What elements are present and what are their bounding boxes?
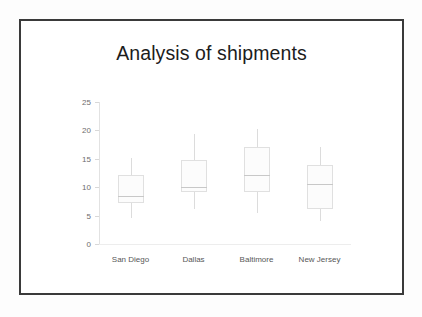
whisker-lower	[257, 192, 258, 213]
x-axis-line	[99, 244, 351, 245]
slide-frame: Analysis of shipments 0510152025 San Die…	[19, 19, 404, 295]
y-tick-label: 5	[65, 211, 91, 220]
whisker-lower	[320, 209, 321, 221]
x-axis-category-label: Dallas	[182, 255, 204, 264]
whisker-lower	[194, 192, 195, 209]
box-rect	[307, 165, 333, 209]
median-line	[244, 175, 270, 176]
median-line	[181, 187, 207, 188]
chart-plot-area: 0510152025 San DiegoDallasBaltimoreNew J…	[21, 21, 406, 297]
box-rect	[118, 175, 144, 203]
y-tick-mark	[95, 244, 99, 245]
median-line	[118, 196, 144, 197]
y-tick-mark	[95, 187, 99, 188]
whisker-upper	[131, 158, 132, 175]
y-tick-mark	[95, 159, 99, 160]
y-tick-label: 0	[65, 240, 91, 249]
y-tick-mark	[95, 102, 99, 103]
x-axis-category-label: New Jersey	[299, 255, 341, 264]
x-axis-category-label: Baltimore	[240, 255, 274, 264]
y-tick-label: 10	[65, 183, 91, 192]
y-tick-label: 20	[65, 126, 91, 135]
whisker-lower	[131, 203, 132, 218]
x-axis-category-label: San Diego	[112, 255, 149, 264]
y-tick-mark	[95, 130, 99, 131]
whisker-upper	[257, 129, 258, 147]
whisker-upper	[194, 134, 195, 160]
whisker-upper	[320, 147, 321, 165]
y-tick-label: 25	[65, 98, 91, 107]
box-rect	[244, 147, 270, 192]
y-axis-line	[99, 102, 100, 244]
y-tick-mark	[95, 216, 99, 217]
median-line	[307, 184, 333, 185]
y-tick-label: 15	[65, 154, 91, 163]
